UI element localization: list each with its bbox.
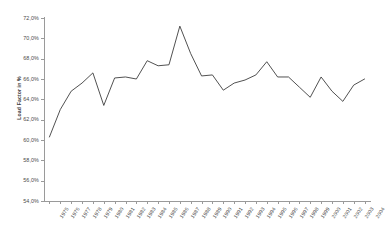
series-line-load-factor — [49, 26, 364, 137]
x-tick-label: 2004 — [374, 206, 385, 219]
